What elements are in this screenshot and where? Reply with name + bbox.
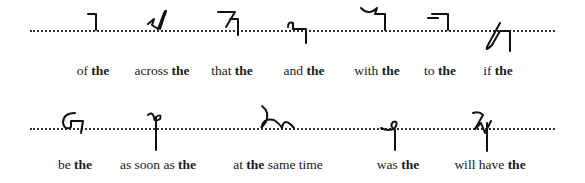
outline-of-the-icon [80,5,110,40]
label-be-the: be the [58,157,92,173]
outline-was-the-icon [375,112,410,157]
label-of-the: of the [77,63,110,79]
label-if-the: if the [483,63,513,79]
outline-and-the-icon [280,5,320,50]
label-as-soon-as-the: as soon as the [120,157,196,173]
outline-will-have-the-icon [465,105,505,155]
label-at-the-same-time: at the same time [233,157,323,173]
label-was-the: was the [377,157,419,173]
outline-to-the-icon [420,5,460,40]
outline-be-the-icon [55,105,95,140]
label-will-have-the: will have the [454,157,525,173]
label-to-the: to the [424,63,456,79]
label-and-the: and the [284,63,325,79]
label-that-the: that the [211,63,253,79]
label-with-the: with the [354,63,399,79]
outline-as-soon-as-the-icon [140,105,170,155]
label-across-the: across the [134,63,189,79]
outline-with-the-icon [355,0,400,35]
outline-that-the-icon [210,5,250,45]
outline-across-the-icon [140,5,180,40]
outline-at-the-same-time-icon [250,100,300,135]
outline-if-the-icon [480,15,520,60]
